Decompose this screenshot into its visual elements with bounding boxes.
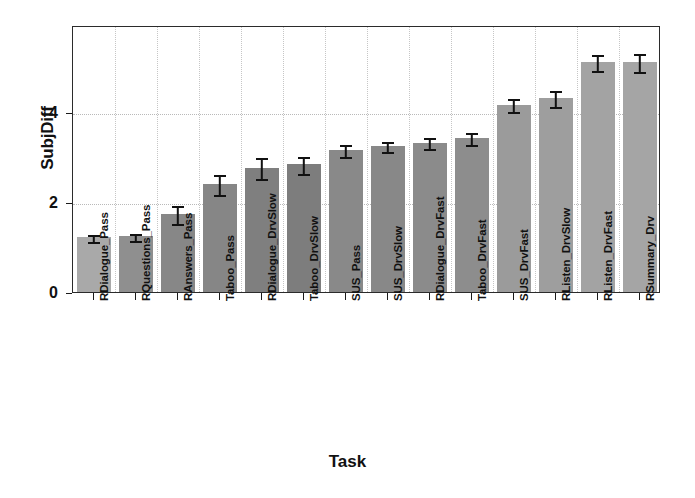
error-bar-cap-bottom	[466, 145, 477, 147]
x-tick-mark	[639, 293, 640, 300]
y-tick-mark	[66, 293, 72, 294]
gridline-vertical	[367, 27, 368, 292]
x-tick-label: RDialogue_DrvFast	[434, 197, 446, 301]
gridline-vertical	[115, 27, 116, 292]
error-bar-cap-top	[508, 99, 519, 101]
x-tick-label: RQuestions_Pass	[140, 205, 152, 301]
x-tick-mark	[303, 293, 304, 300]
error-bar	[256, 158, 267, 181]
x-tick-label: SUS_DrvSlow	[392, 226, 404, 301]
error-bar	[424, 138, 435, 152]
x-tick-label: RListen_DrvFast	[602, 211, 614, 301]
y-tick-label: 2	[36, 195, 58, 211]
gridline-vertical	[199, 27, 200, 292]
error-bar	[340, 145, 351, 159]
x-tick-label: SUS_Pass	[350, 245, 362, 301]
error-bar	[592, 55, 603, 73]
x-tick-mark	[219, 293, 220, 300]
y-tick-label: 4	[36, 105, 58, 121]
gridline-vertical	[535, 27, 536, 292]
gridline-vertical	[325, 27, 326, 292]
error-bar-cap-bottom	[424, 149, 435, 151]
error-bar-cap-top	[382, 142, 393, 144]
x-tick-mark	[93, 293, 94, 300]
error-bar	[466, 133, 477, 147]
error-bar-cap-bottom	[592, 71, 603, 73]
error-bar-cap-top	[340, 145, 351, 147]
x-tick-label: RSummary_Drv	[644, 216, 656, 301]
error-bar-cap-top	[214, 175, 225, 177]
x-tick-mark	[471, 293, 472, 300]
gridline-vertical	[577, 27, 578, 292]
x-tick-label: RListen_DrvSlow	[560, 208, 572, 301]
x-tick-mark	[555, 293, 556, 300]
error-bar-stem	[261, 158, 263, 181]
error-bar-cap-bottom	[298, 174, 309, 176]
x-tick-mark	[513, 293, 514, 300]
error-bar-cap-bottom	[256, 179, 267, 181]
error-bar-cap-bottom	[634, 72, 645, 74]
x-tick-label: Taboo_Pass	[224, 235, 236, 301]
error-bar-cap-bottom	[214, 195, 225, 197]
y-tick-label: 0	[36, 285, 58, 301]
error-bar-cap-top	[592, 55, 603, 57]
x-tick-mark	[429, 293, 430, 300]
x-tick-mark	[345, 293, 346, 300]
error-bar	[382, 142, 393, 155]
error-bar-cap-bottom	[550, 107, 561, 109]
x-tick-label: Taboo_DrvFast	[476, 219, 488, 301]
error-bar	[298, 157, 309, 176]
error-bar-cap-top	[550, 91, 561, 93]
x-tick-label: RDialogue_DrvSlow	[266, 193, 278, 301]
bar-chart: SubjDiff 024 RDialogue_PassRQuestions_Pa…	[0, 0, 695, 498]
x-axis-title: Task	[0, 452, 695, 472]
error-bar-stem	[219, 175, 221, 197]
error-bar	[550, 91, 561, 109]
gridline-vertical	[283, 27, 284, 292]
x-tick-label: RAnswers_Pass	[182, 213, 194, 301]
x-tick-mark	[177, 293, 178, 300]
error-bar-cap-bottom	[382, 152, 393, 154]
gridline-vertical	[157, 27, 158, 292]
x-tick-label: SUS_DrvFast	[518, 229, 530, 301]
gridline-vertical	[493, 27, 494, 292]
error-bar-cap-top	[466, 133, 477, 135]
error-bar-cap-top	[172, 206, 183, 208]
error-bar-cap-bottom	[340, 157, 351, 159]
error-bar	[634, 54, 645, 74]
x-tick-mark	[387, 293, 388, 300]
x-tick-label: Taboo_DrvSlow	[308, 216, 320, 301]
x-tick-mark	[135, 293, 136, 300]
y-axis-title: SubjDiff	[38, 68, 58, 208]
error-bar-cap-top	[424, 138, 435, 140]
error-bar	[214, 175, 225, 197]
error-bar	[508, 99, 519, 113]
x-tick-label: RDialogue_Pass	[98, 212, 110, 301]
error-bar-cap-top	[298, 157, 309, 159]
gridline-vertical	[619, 27, 620, 292]
x-tick-mark	[597, 293, 598, 300]
error-bar-cap-top	[256, 158, 267, 160]
gridline-vertical	[451, 27, 452, 292]
gridline-vertical	[241, 27, 242, 292]
gridline-vertical	[409, 27, 410, 292]
error-bar-cap-bottom	[508, 112, 519, 114]
x-tick-mark	[261, 293, 262, 300]
error-bar-cap-top	[634, 54, 645, 56]
